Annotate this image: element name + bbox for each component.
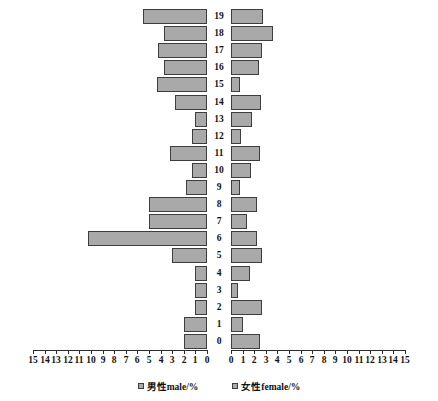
male-bar-row bbox=[33, 230, 207, 247]
age-tick-label: 15 bbox=[207, 76, 231, 93]
legend-swatch-female-icon bbox=[232, 383, 238, 389]
male-bar-row bbox=[33, 76, 207, 93]
female-bar-row bbox=[231, 145, 405, 162]
male-bar bbox=[158, 43, 207, 58]
population-pyramid-chart: 012345678910111213141516171819 151413121… bbox=[0, 0, 438, 401]
x-tick-right bbox=[347, 350, 348, 354]
x-tick-left bbox=[68, 350, 69, 354]
age-tick-label: 14 bbox=[207, 94, 231, 111]
female-bar bbox=[231, 77, 240, 92]
x-axis-line-right bbox=[231, 350, 405, 351]
x-tick-right bbox=[289, 350, 290, 354]
male-bar bbox=[184, 334, 207, 349]
age-tick-label: 13 bbox=[207, 111, 231, 128]
male-bar-row bbox=[33, 25, 207, 42]
male-bar-row bbox=[33, 162, 207, 179]
female-bar bbox=[231, 95, 261, 110]
male-bar bbox=[88, 231, 207, 246]
male-bar bbox=[195, 112, 207, 127]
x-tick-left bbox=[207, 350, 208, 354]
male-bar bbox=[149, 197, 207, 212]
male-bar bbox=[195, 283, 207, 298]
x-tick-left bbox=[184, 350, 185, 354]
male-bars-panel bbox=[33, 8, 207, 350]
x-tick-label-left: 0 bbox=[198, 355, 216, 365]
male-bar bbox=[164, 60, 207, 75]
female-bar-row bbox=[231, 213, 405, 230]
x-tick-left bbox=[137, 350, 138, 354]
x-tick-right bbox=[266, 350, 267, 354]
female-bar bbox=[231, 266, 250, 281]
age-tick-label: 7 bbox=[207, 213, 231, 230]
x-tick-right bbox=[231, 350, 232, 354]
age-tick-label: 9 bbox=[207, 179, 231, 196]
age-tick-label: 3 bbox=[207, 282, 231, 299]
male-bar-row bbox=[33, 94, 207, 111]
x-tick-left bbox=[161, 350, 162, 354]
female-bar-row bbox=[231, 76, 405, 93]
male-bar-row bbox=[33, 179, 207, 196]
female-bar bbox=[231, 146, 260, 161]
age-tick-label: 4 bbox=[207, 265, 231, 282]
age-tick-label: 18 bbox=[207, 25, 231, 42]
male-bar-row bbox=[33, 282, 207, 299]
age-tick-label: 10 bbox=[207, 162, 231, 179]
x-tick-right bbox=[312, 350, 313, 354]
age-tick-label: 1 bbox=[207, 316, 231, 333]
female-bar bbox=[231, 60, 259, 75]
female-bar bbox=[231, 197, 257, 212]
x-tick-left bbox=[114, 350, 115, 354]
female-bar bbox=[231, 214, 247, 229]
female-bars-panel bbox=[231, 8, 405, 350]
x-tick-right bbox=[254, 350, 255, 354]
male-bar bbox=[195, 266, 207, 281]
male-bar-row bbox=[33, 42, 207, 59]
male-bar bbox=[157, 77, 207, 92]
female-bar bbox=[231, 334, 260, 349]
x-tick-right bbox=[324, 350, 325, 354]
male-bar bbox=[192, 163, 207, 178]
female-bar bbox=[231, 231, 257, 246]
age-tick-label: 2 bbox=[207, 299, 231, 316]
x-tick-right bbox=[405, 350, 406, 354]
female-bar-row bbox=[231, 128, 405, 145]
male-bar bbox=[172, 248, 207, 263]
age-tick-label: 12 bbox=[207, 128, 231, 145]
female-bar-row bbox=[231, 316, 405, 333]
female-bar-row bbox=[231, 111, 405, 128]
female-bar-row bbox=[231, 247, 405, 264]
male-bar-row bbox=[33, 247, 207, 264]
male-bar bbox=[192, 129, 207, 144]
male-bar bbox=[164, 26, 207, 41]
x-tick-left bbox=[172, 350, 173, 354]
age-tick-label: 16 bbox=[207, 59, 231, 76]
male-bar-row bbox=[33, 333, 207, 350]
age-tick-label: 0 bbox=[207, 333, 231, 350]
female-bar-row bbox=[231, 333, 405, 350]
female-bar bbox=[231, 9, 263, 24]
female-bar bbox=[231, 248, 262, 263]
x-tick-left bbox=[126, 350, 127, 354]
x-tick-left bbox=[91, 350, 92, 354]
female-bar-row bbox=[231, 42, 405, 59]
male-bar bbox=[175, 95, 207, 110]
chart-legend: 男性male/% 女性female/% bbox=[0, 379, 438, 393]
plot-area: 012345678910111213141516171819 bbox=[33, 8, 405, 350]
female-bar bbox=[231, 317, 243, 332]
legend-swatch-male-icon bbox=[138, 383, 144, 389]
x-tick-right bbox=[382, 350, 383, 354]
age-tick-label: 6 bbox=[207, 230, 231, 247]
male-bar bbox=[195, 300, 207, 315]
male-bar-row bbox=[33, 59, 207, 76]
x-tick-left bbox=[103, 350, 104, 354]
female-bar-row bbox=[231, 94, 405, 111]
age-tick-label: 5 bbox=[207, 247, 231, 264]
male-bar-row bbox=[33, 316, 207, 333]
x-tick-left bbox=[45, 350, 46, 354]
age-tick-label: 19 bbox=[207, 8, 231, 25]
female-bar-row bbox=[231, 179, 405, 196]
female-bar bbox=[231, 26, 273, 41]
female-bar bbox=[231, 43, 262, 58]
age-tick-label: 11 bbox=[207, 145, 231, 162]
male-bar-row bbox=[33, 128, 207, 145]
